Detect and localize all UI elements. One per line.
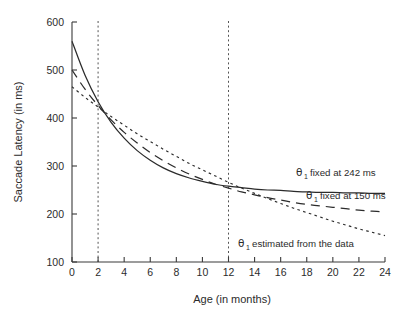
chart-canvas: 024681012141618202224 100200300400500600…: [0, 0, 408, 314]
x-tick-label: 6: [147, 266, 153, 278]
series-annotations-group: θ 1 fixed at 242 ms θ 1 fixed at 150 ms …: [238, 166, 386, 251]
x-tick-label: 22: [353, 266, 365, 278]
y-tick-label: 500: [46, 64, 64, 76]
y-tick-label: 600: [46, 16, 64, 28]
annotation-label-242: fixed at 242 ms: [310, 167, 376, 178]
x-tick-label: 18: [301, 266, 313, 278]
y-axis-tick-labels: 100200300400500600: [46, 16, 64, 268]
theta-symbol-estimated: θ: [238, 237, 244, 249]
x-tick-label: 8: [173, 266, 179, 278]
x-axis-ticks: [72, 257, 385, 262]
annotation-label-150: fixed at 150 ms: [320, 190, 386, 201]
y-tick-label: 400: [46, 112, 64, 124]
x-tick-label: 10: [197, 266, 209, 278]
x-tick-label: 4: [121, 266, 127, 278]
theta-symbol-150: θ: [306, 189, 312, 201]
theta-subscript-estimated: 1: [246, 244, 250, 251]
annotation-fixed-242: θ 1 fixed at 242 ms: [296, 166, 376, 180]
reference-lines-group: [98, 21, 228, 262]
x-axis-tick-labels: 024681012141618202224: [69, 266, 391, 278]
x-tick-label: 20: [327, 266, 339, 278]
theta-subscript-242: 1: [304, 173, 308, 180]
annotation-fixed-150: θ 1 fixed at 150 ms: [306, 189, 386, 203]
x-axis-title: Age (in months): [193, 293, 271, 305]
y-axis-title: Saccade Latency (in ms): [12, 81, 24, 202]
x-tick-label: 14: [249, 266, 261, 278]
y-tick-label: 300: [46, 160, 64, 172]
y-tick-label: 200: [46, 208, 64, 220]
y-tick-label: 100: [46, 256, 64, 268]
annotation-estimated: θ 1 estimated from the data: [238, 237, 354, 251]
y-axis-ticks: [72, 22, 77, 262]
x-tick-label: 24: [379, 266, 391, 278]
x-tick-label: 16: [275, 266, 287, 278]
annotation-label-estimated: estimated from the data: [252, 238, 354, 249]
theta-subscript-150: 1: [314, 196, 318, 203]
x-tick-label: 2: [95, 266, 101, 278]
x-tick-label: 12: [223, 266, 235, 278]
x-tick-label: 0: [69, 266, 75, 278]
saccade-latency-chart: 024681012141618202224 100200300400500600…: [0, 0, 408, 314]
theta-symbol-242: θ: [296, 166, 302, 178]
